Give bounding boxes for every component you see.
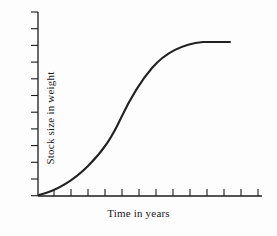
y-axis-ticks (31, 12, 38, 196)
y-axis-title: Stock size in weight (45, 72, 56, 165)
chart-figure: Stock size in weight Time in years (0, 0, 277, 236)
x-axis-ticks (54, 189, 258, 196)
x-axis-title: Time in years (0, 208, 277, 219)
growth-curve-line (39, 42, 230, 195)
x-axis-title-text: Time in years (107, 207, 170, 219)
y-axis-title-text: Stock size in weight (45, 72, 56, 165)
chart-plot-area (0, 0, 277, 236)
